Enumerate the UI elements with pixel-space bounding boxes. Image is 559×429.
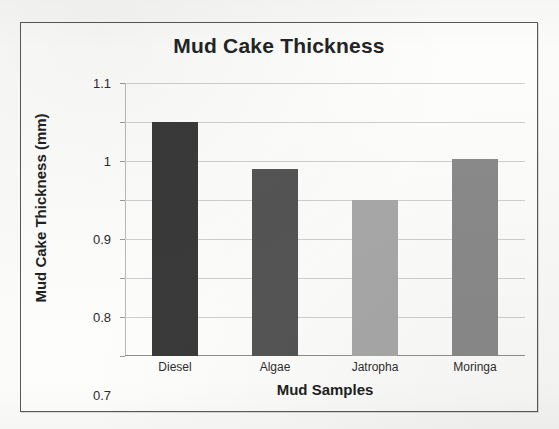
bar (452, 159, 498, 356)
y-axis-title: Mud Cake Thickness (mm) (29, 83, 51, 333)
bar (152, 122, 198, 356)
y-axis-tick-label: 0.7 (93, 388, 111, 403)
bar (252, 169, 298, 356)
bar-slot: Moringa (425, 83, 525, 356)
y-axis-tick: 0.4 (120, 356, 125, 357)
x-axis-tick-label: Moringa (453, 360, 496, 374)
y-axis-tick-label: 1.1 (93, 76, 111, 91)
bar-slot: Algae (225, 83, 325, 356)
chart-title: Mud Cake Thickness (21, 34, 537, 58)
bar-slot: Diesel (125, 83, 225, 356)
plot-area: 1.110.90.80.70.60.50.4 DieselAlgaeJatrop… (125, 83, 525, 356)
chart-frame: Mud Cake Thickness Mud Cake Thickness (m… (20, 22, 538, 412)
y-axis-tick-label: 1 (104, 154, 111, 169)
x-axis-title: Mud Samples (125, 381, 525, 398)
y-axis-tick-label: 0.9 (93, 232, 111, 247)
bar-slot: Jatropha (325, 83, 425, 356)
bar (352, 200, 398, 356)
y-axis-tick-label: 0.8 (93, 310, 111, 325)
x-axis-tick-label: Algae (260, 360, 291, 374)
x-axis-tick-label: Diesel (158, 360, 191, 374)
x-axis-tick-label: Jatropha (352, 360, 399, 374)
